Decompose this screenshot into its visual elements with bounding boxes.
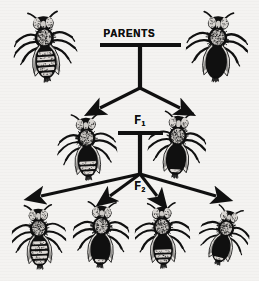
parents-to-f1-left [100,88,140,108]
parent-left [10,8,79,88]
genetics-cross-diagram: PARENTS F1 F2 [0,0,259,281]
parent-right [184,8,250,87]
f1-left [55,110,119,185]
abdomen-band [32,241,46,244]
f2-2 [72,199,130,273]
f1-right [146,108,209,184]
f2-3 [134,200,191,273]
f2-letter: F [135,179,142,193]
abdomen-band [155,254,170,258]
f1-letter: F [135,113,142,127]
abdomen-band [158,259,169,262]
f2-1 [11,202,67,274]
generation-label-f2: F2 [123,180,157,192]
f1-subscript: 1 [142,119,146,128]
abdomen-band [95,259,106,262]
f2-subscript: 2 [142,185,146,194]
parents-to-f1-right [140,88,180,108]
